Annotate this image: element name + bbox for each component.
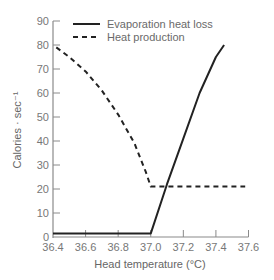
y-tick-label: 30 [37, 159, 49, 171]
x-tick-label: 37.2 [173, 241, 194, 253]
x-axis-label: Head temperature (°C) [94, 258, 205, 270]
y-tick-label: 60 [37, 87, 49, 99]
legend: Evaporation heat loss Heat production [73, 18, 213, 43]
x-tick-label: 36.4 [42, 241, 63, 253]
y-tick-label: 20 [37, 183, 49, 195]
x-tick-label: 37.6 [238, 241, 259, 253]
evaporation-heat-loss-line [53, 45, 224, 233]
chart: 0102030405060708090 36.436.636.837.037.2… [0, 0, 274, 280]
x-tick-label: 36.6 [75, 241, 96, 253]
heat-production-line [56, 47, 245, 186]
y-tick-label: 80 [37, 39, 49, 51]
y-axis-label: Calories · sec⁻¹ [11, 91, 23, 168]
legend-label-heat-production: Heat production [107, 31, 185, 43]
x-tick-label: 37.0 [140, 241, 161, 253]
y-tick-label: 40 [37, 135, 49, 147]
y-tick-label: 10 [37, 207, 49, 219]
x-tick-label: 36.8 [107, 241, 128, 253]
y-tick-label: 50 [37, 111, 49, 123]
x-tick-label: 37.4 [205, 241, 226, 253]
series-lines [53, 45, 245, 233]
y-tick-label: 90 [37, 15, 49, 27]
legend-label-evaporation: Evaporation heat loss [107, 18, 213, 30]
y-tick-label: 70 [37, 63, 49, 75]
y-axis: 0102030405060708090 [37, 15, 60, 243]
